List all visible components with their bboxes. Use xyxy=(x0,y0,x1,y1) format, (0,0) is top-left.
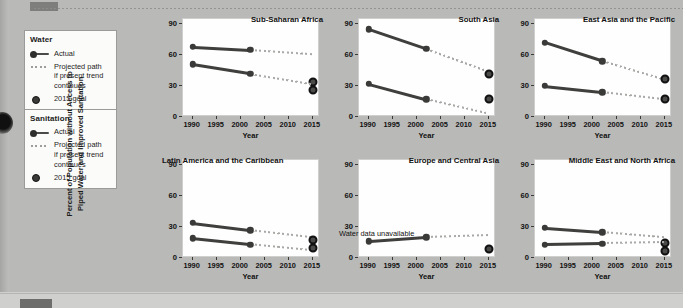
y-tick-mark xyxy=(179,54,182,55)
x-tick-label: 2005 xyxy=(607,120,623,129)
plot-area xyxy=(358,159,495,257)
x-tick-label: 2005 xyxy=(431,120,447,129)
y-axis-title: Percent of Population without Access to … xyxy=(65,19,87,269)
x-tick-mark xyxy=(440,116,441,119)
x-tick-label: 2000 xyxy=(407,120,423,129)
x-axis-title: Year xyxy=(358,272,495,281)
x-tick-label: 2015 xyxy=(304,261,320,270)
x-tick-label: 2005 xyxy=(255,120,271,129)
x-tick-label: 2010 xyxy=(456,120,472,129)
sanitation-actual-point-start xyxy=(541,225,547,231)
water-actual-point-end xyxy=(423,96,429,102)
actual-line-segment xyxy=(368,28,427,50)
sanitation-actual-point-start xyxy=(541,40,547,46)
x-tick-label: 2000 xyxy=(231,120,247,129)
x-tick-mark xyxy=(640,116,641,119)
y-tick-mark xyxy=(179,195,182,196)
x-tick-mark xyxy=(240,116,241,119)
x-tick-mark xyxy=(544,257,545,260)
y-tick-mark xyxy=(355,226,358,227)
projected-line-segment xyxy=(250,229,313,238)
x-tick-label: 2015 xyxy=(304,120,320,129)
water-2015-goal-marker xyxy=(484,95,493,104)
x-tick-mark xyxy=(592,257,593,260)
x-axis-title: Year xyxy=(358,131,495,140)
water-2015-goal-marker xyxy=(308,86,317,95)
y-tick-mark xyxy=(355,85,358,86)
projected-line-segment xyxy=(426,98,489,115)
x-tick-mark xyxy=(664,257,665,260)
x-axis-title: Year xyxy=(534,131,671,140)
x-tick-label: 1990 xyxy=(359,261,375,270)
sanitation-2015-goal-marker xyxy=(484,244,493,253)
projected-line-segment xyxy=(602,60,665,81)
water-2015-goal-marker xyxy=(660,95,669,104)
x-tick-mark xyxy=(392,257,393,260)
panel-title: Middle East and North Africa xyxy=(569,156,675,165)
sanitation-actual-point-start xyxy=(189,44,195,50)
ringed-dot-icon xyxy=(30,174,50,183)
x-tick-mark xyxy=(416,116,417,119)
sanitation-actual-point-end xyxy=(247,227,253,233)
x-axis: 199019952000200520102015Year xyxy=(182,257,319,287)
projected-line-segment xyxy=(250,243,313,251)
x-tick-mark xyxy=(488,116,489,119)
x-tick-mark xyxy=(464,257,465,260)
dotted-line-icon xyxy=(30,141,50,150)
panel-latin-america-and-the-caribbean: Latin America and the Caribbean030609019… xyxy=(156,153,328,290)
sanitation-actual-point-end xyxy=(247,47,253,53)
y-tick-mark xyxy=(355,164,358,165)
x-tick-label: 2015 xyxy=(480,261,496,270)
plot-area xyxy=(534,159,671,257)
x-tick-mark xyxy=(440,257,441,260)
x-tick-label: 2010 xyxy=(280,261,296,270)
line-with-dot-icon xyxy=(30,128,50,137)
water-actual-point-start xyxy=(541,241,547,247)
line-with-dot-icon xyxy=(30,50,50,59)
projected-line-segment xyxy=(602,231,665,238)
panel-sub-saharan-africa: Sub-Saharan Africa0306090199019952000200… xyxy=(156,12,328,149)
x-tick-label: 1990 xyxy=(183,261,199,270)
x-tick-mark xyxy=(216,116,217,119)
water-actual-point-end xyxy=(247,70,253,76)
y-tick-mark xyxy=(531,195,534,196)
actual-line-segment xyxy=(545,242,603,246)
sanitation-actual-point-end xyxy=(599,229,605,235)
x-axis: 199019952000200520102015Year xyxy=(534,257,671,287)
x-axis: 199019952000200520102015Year xyxy=(358,257,495,287)
ringed-dot-icon xyxy=(30,95,50,104)
dotted-line-icon xyxy=(30,63,50,72)
x-tick-mark xyxy=(616,116,617,119)
x-axis-title: Year xyxy=(534,272,671,281)
x-tick-label: 2015 xyxy=(656,120,672,129)
x-tick-label: 1990 xyxy=(535,120,551,129)
y-tick-mark xyxy=(355,54,358,55)
x-tick-label: 1990 xyxy=(359,120,375,129)
panel-south-asia: South Asia030609019901995200020052010201… xyxy=(332,12,504,149)
x-tick-label: 2015 xyxy=(480,120,496,129)
y-tick-mark xyxy=(179,226,182,227)
water-2015-goal-marker xyxy=(660,246,669,255)
panel-europe-and-central-asia: Europe and Central AsiaWater data unavai… xyxy=(332,153,504,290)
panel-title: South Asia xyxy=(459,15,499,24)
projected-line-segment xyxy=(602,91,665,100)
x-tick-mark xyxy=(288,257,289,260)
x-tick-mark xyxy=(368,257,369,260)
y-tick-mark xyxy=(355,195,358,196)
projected-line-segment xyxy=(602,241,665,244)
x-tick-label: 1990 xyxy=(183,120,199,129)
y-tick-mark xyxy=(531,85,534,86)
x-axis: 199019952000200520102015Year xyxy=(534,116,671,146)
panel-note: Water data unavailable xyxy=(339,229,414,238)
x-tick-label: 1995 xyxy=(559,120,575,129)
x-tick-mark xyxy=(568,116,569,119)
x-tick-label: 1995 xyxy=(383,120,399,129)
x-tick-label: 1995 xyxy=(559,261,575,270)
sanitation-2015-goal-marker xyxy=(660,74,669,83)
panel-title: Europe and Central Asia xyxy=(409,156,499,165)
x-tick-mark xyxy=(240,257,241,260)
x-tick-label: 2005 xyxy=(607,261,623,270)
y-tick-mark xyxy=(355,23,358,24)
projected-line-segment xyxy=(426,234,489,238)
x-tick-label: 2010 xyxy=(632,120,648,129)
